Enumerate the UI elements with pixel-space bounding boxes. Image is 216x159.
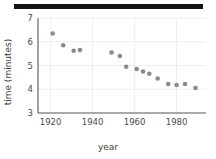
data-point	[78, 48, 83, 53]
data-point	[147, 72, 152, 77]
x-axis-title: year	[98, 142, 118, 152]
x-tick-label: 1940	[82, 117, 104, 127]
data-point	[155, 76, 160, 81]
data-point	[61, 43, 66, 48]
data-point	[141, 69, 146, 74]
y-tick-label: 7	[28, 13, 33, 23]
data-point	[109, 50, 114, 55]
y-tick-label: 3	[28, 108, 33, 118]
plot-svg: 34567 1920194019601980 year time (minute…	[0, 10, 216, 159]
data-point	[124, 64, 129, 69]
x-tick-label: 1920	[40, 117, 62, 127]
y-tick-label: 4	[28, 84, 33, 94]
data-point	[193, 86, 198, 91]
data-points	[50, 31, 197, 90]
data-point	[118, 54, 123, 59]
data-point	[71, 48, 76, 53]
y-tick-label: 5	[28, 61, 33, 71]
y-axis-title: time (minutes)	[3, 39, 13, 106]
data-point	[134, 67, 139, 72]
data-point	[50, 31, 55, 36]
chart-page: 34567 1920194019601980 year time (minute…	[0, 0, 216, 159]
data-point	[174, 83, 179, 88]
top-black-bar	[14, 4, 203, 9]
x-tick-label: 1960	[124, 117, 146, 127]
gridlines	[38, 18, 206, 113]
x-tick-labels: 1920194019601980	[40, 117, 188, 127]
y-tick-label: 6	[28, 37, 33, 47]
data-point	[183, 82, 188, 87]
x-tick-label: 1980	[166, 117, 188, 127]
data-point	[166, 82, 171, 87]
scatter-chart: 34567 1920194019601980 year time (minute…	[0, 10, 216, 159]
y-tick-labels: 34567	[28, 13, 33, 118]
